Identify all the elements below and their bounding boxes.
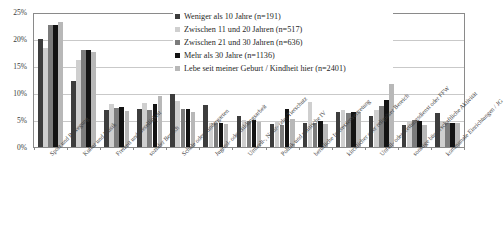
- legend-swatch-icon: [175, 66, 180, 71]
- legend-label: Mehr als 30 Jahre (n=1136): [184, 51, 275, 61]
- bar: [86, 50, 91, 147]
- bar: [384, 100, 389, 147]
- legend-label: Weniger als 10 Jahre (n=191): [184, 12, 281, 22]
- legend-label: Zwischen 11 und 20 Jahren (n=517): [184, 25, 302, 35]
- legend-swatch-icon: [175, 40, 180, 45]
- y-axis-tick-label: 20%: [13, 36, 27, 44]
- legend-item[interactable]: Lebe seit meiner Geburt / Kindheit hier …: [175, 62, 391, 75]
- legend-item[interactable]: Mehr als 30 Jahre (n=1136): [175, 49, 391, 62]
- bar: [38, 39, 43, 147]
- legend-item[interactable]: Weniger als 10 Jahre (n=191): [175, 10, 391, 23]
- bar: [170, 94, 175, 147]
- bar: [76, 60, 81, 147]
- bar: [280, 125, 285, 147]
- bar: [81, 50, 86, 147]
- y-axis: 0%5%10%15%20%25%: [0, 13, 30, 148]
- legend-swatch-icon: [175, 14, 180, 19]
- legend-swatch-icon: [175, 53, 180, 58]
- legend-label: Zwischen 21 und 30 Jahren (n=636): [184, 38, 303, 48]
- legend-item[interactable]: Zwischen 11 und 20 Jahren (n=517): [175, 23, 391, 36]
- x-axis-category-labels: Sport und BewegungKultur und MusikFreize…: [0, 148, 471, 243]
- bar-group: [34, 14, 67, 147]
- y-axis-tick-label: 10%: [13, 90, 27, 98]
- bar: [43, 48, 48, 147]
- bar: [181, 109, 186, 147]
- legend: Weniger als 10 Jahre (n=191)Zwischen 11 …: [173, 9, 393, 77]
- bar: [91, 52, 96, 147]
- bar: [53, 25, 58, 147]
- legend-label: Lebe seit meiner Geburt / Kindheit hier …: [184, 64, 346, 74]
- bar: [58, 22, 63, 147]
- legend-swatch-icon: [175, 27, 180, 32]
- y-axis-tick-label: 5%: [17, 117, 27, 125]
- bar: [48, 25, 53, 147]
- y-axis-tick-label: 15%: [13, 63, 27, 71]
- legend-item[interactable]: Zwischen 21 und 30 Jahren (n=636): [175, 36, 391, 49]
- y-axis-tick-label: 25%: [13, 9, 27, 17]
